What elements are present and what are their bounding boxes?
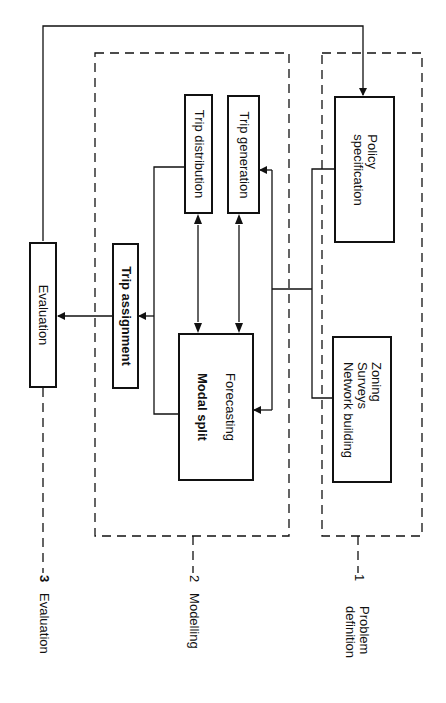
stage-1-name: Problem definition xyxy=(343,606,371,658)
stage-2-label: 2 Modelling xyxy=(187,575,201,649)
forecasting-modal-split-box: Forecasting Modal split xyxy=(178,333,254,481)
policy-label-line1: Policy xyxy=(365,134,379,206)
trip-assignment-label: Trip assignment xyxy=(119,266,133,366)
policy-label-line2: specification xyxy=(351,134,365,206)
policy-specification-box: Policy specification xyxy=(334,96,395,243)
stage-2-name: Modelling xyxy=(187,593,202,649)
trip-distribution-box: Trip distribution xyxy=(184,94,213,214)
trip-generation-label: Trip generation xyxy=(237,111,251,198)
stage-3-label: 3 Evaluation xyxy=(37,575,51,654)
stage-1-number: 1 xyxy=(352,574,367,581)
zoning-surveys-network-box: Zoning Surveys Network building xyxy=(332,336,392,483)
stage-1-label: 1 xyxy=(352,574,366,581)
stage-3-name: Evaluation xyxy=(37,593,52,654)
evaluation-box-label: Evaluation xyxy=(36,285,50,346)
stage-1-name-line2: definition xyxy=(343,606,357,658)
stage-1-name-line1: Problem xyxy=(357,606,371,658)
forecasting-label: Forecasting xyxy=(216,373,244,441)
zoning-label: Zoning xyxy=(369,361,383,457)
trip-assignment-box: Trip assignment xyxy=(112,243,139,389)
trip-distribution-label: Trip distribution xyxy=(192,110,206,198)
evaluation-box: Evaluation xyxy=(29,242,57,388)
network-building-label: Network building xyxy=(341,361,355,457)
surveys-label: Surveys xyxy=(355,361,369,457)
trip-generation-box: Trip generation xyxy=(227,95,260,214)
modal-split-label: Modal split xyxy=(188,373,216,441)
stage-2-number: 2 xyxy=(187,575,202,582)
stage-3-number: 3 xyxy=(37,575,52,582)
